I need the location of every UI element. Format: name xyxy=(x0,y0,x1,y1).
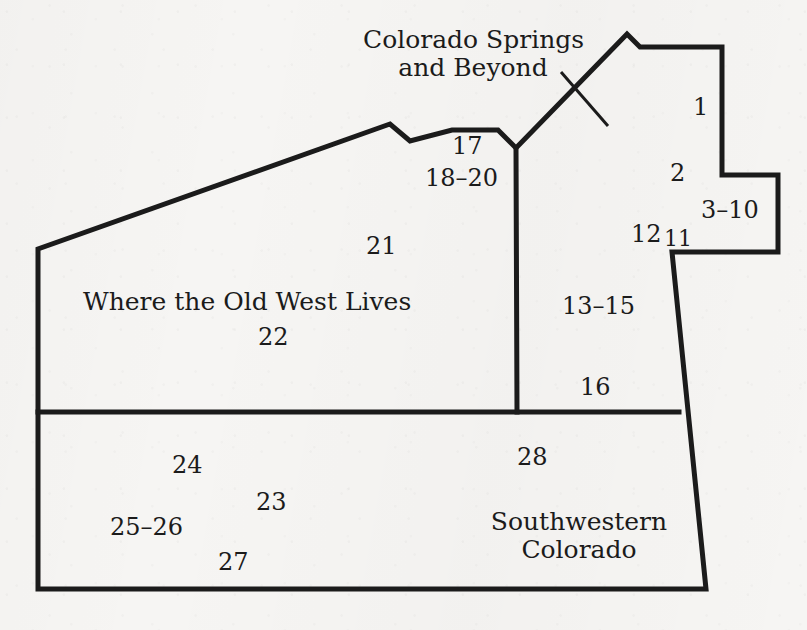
region-title-colorado-springs: Colorado Springs and Beyond xyxy=(363,26,583,82)
chapter-number-1: 1 xyxy=(693,94,708,121)
region-title-southwestern-colorado-line1: Southwestern xyxy=(489,508,669,536)
chapter-number-12: 12 xyxy=(631,221,662,248)
chapter-number-23: 23 xyxy=(256,489,287,516)
chapter-number-24: 24 xyxy=(172,452,203,479)
chapter-number-28: 28 xyxy=(517,444,548,471)
chapter-number-25-26: 25–26 xyxy=(110,514,183,541)
chapter-number-22: 22 xyxy=(258,324,289,351)
chapter-number-2: 2 xyxy=(670,160,685,187)
chapter-number-3-10: 3–10 xyxy=(701,197,759,224)
divider-vertical-center xyxy=(516,148,517,412)
region-title-southwestern-colorado-line2: Colorado xyxy=(489,536,669,564)
region-title-colorado-springs-line2: and Beyond xyxy=(363,54,583,82)
region-title-southwestern-colorado: Southwestern Colorado xyxy=(489,508,669,564)
region-title-colorado-springs-line1: Colorado Springs xyxy=(363,26,583,54)
chapter-number-16: 16 xyxy=(580,374,611,401)
chapter-number-21: 21 xyxy=(366,233,397,260)
region-title-old-west: Where the Old West Lives xyxy=(83,288,413,316)
chapter-number-27: 27 xyxy=(218,549,249,576)
map-figure: Colorado Springs and Beyond Where the Ol… xyxy=(0,0,807,630)
chapter-number-13-15: 13–15 xyxy=(562,293,635,320)
chapter-number-11: 11 xyxy=(664,227,692,252)
chapter-number-18-20: 18–20 xyxy=(425,165,498,192)
chapter-number-17: 17 xyxy=(452,133,483,160)
